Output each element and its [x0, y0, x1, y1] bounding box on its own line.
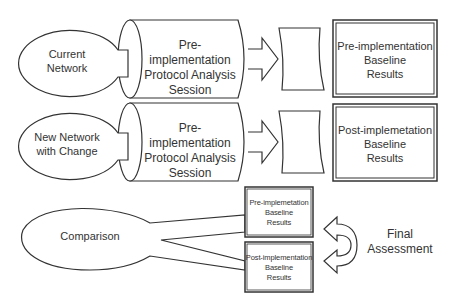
hollow-arrow-2 — [248, 121, 278, 163]
hollow-arrow-1 — [248, 38, 278, 80]
comparison-label: Comparison — [40, 230, 140, 244]
session-label-2: Pre-implementation Protocol Analysis Ses… — [140, 121, 240, 181]
source-label-2: New Network with Change — [18, 131, 116, 159]
result-label-2: Post-implemetation Baseline Results — [333, 124, 437, 165]
document-shape-2 — [279, 111, 324, 173]
final-assessment-label: Final Assessment — [360, 227, 440, 257]
result-label-1: Pre-implementation Baseline Results — [336, 40, 434, 81]
session-label-1: Pre-implementation Protocol Analysis Ses… — [140, 38, 240, 98]
source-label-1: Current Network — [22, 48, 112, 76]
compare-top-label: Pre-implemetation Baseline Results — [245, 198, 313, 227]
document-shape-1 — [279, 28, 324, 90]
compare-bottom-label: Post-implementation Baseline Results — [243, 253, 315, 282]
cycle-arrow-icon — [324, 217, 357, 273]
